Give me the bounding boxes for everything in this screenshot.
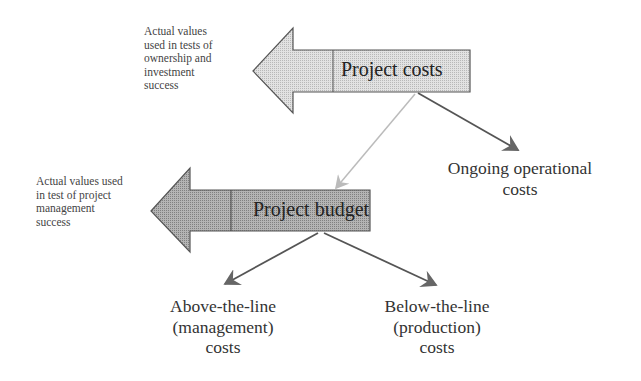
above-the-line-costs-label: Above-the-line (management) costs: [148, 296, 298, 358]
connector-costs-to-budget: [336, 94, 415, 188]
connector-costs-to-ongoing: [418, 93, 518, 150]
below-the-line-costs-label: Below-the-line (production) costs: [362, 296, 512, 358]
connector-budget-to-below: [324, 233, 436, 285]
connector-budget-to-above: [225, 233, 318, 284]
ownership-investment-note: Actual values used in tests of ownership…: [144, 25, 213, 93]
project-management-note: Actual values used in test of project ma…: [36, 175, 123, 229]
project-costs-label: Project costs: [341, 58, 443, 81]
ongoing-operational-costs-label: Ongoing operational costs: [425, 158, 615, 199]
project-budget-label: Project budget: [253, 198, 369, 221]
